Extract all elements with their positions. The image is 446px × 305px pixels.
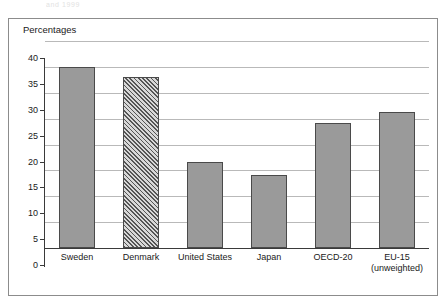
x-label-united-states: United States — [173, 252, 237, 263]
y-tick-mark-5 — [40, 239, 44, 240]
y-tick-mark-25 — [40, 136, 44, 137]
x-label-main: OECD-20 — [313, 252, 352, 262]
gridline-40 — [45, 41, 429, 42]
bar-sweden[interactable] — [59, 67, 95, 248]
x-label-main: Denmark — [123, 252, 160, 262]
x-label-japan: Japan — [237, 252, 301, 263]
y-tick-label-35: 35 — [28, 79, 38, 88]
bar-eu-15[interactable] — [379, 112, 415, 248]
y-tick-label-25: 25 — [28, 131, 38, 140]
y-tick-label-30: 30 — [28, 105, 38, 114]
top-caption-text: and 1999 — [46, 0, 80, 9]
y-tick-mark-20 — [40, 162, 44, 163]
y-tick-mark-15 — [40, 187, 44, 188]
bar-japan[interactable] — [251, 175, 287, 248]
x-label-denmark: Denmark — [109, 252, 173, 263]
gridline-10 — [45, 196, 429, 197]
bar-denmark[interactable] — [123, 77, 159, 248]
x-label-sweden: Sweden — [45, 252, 109, 263]
x-label-sub: (unweighted) — [365, 263, 429, 274]
y-tick-mark-0 — [40, 265, 44, 266]
y-tick-label-0: 0 — [33, 261, 38, 270]
gridline-35 — [45, 67, 429, 68]
gridline-0 — [45, 248, 429, 249]
y-tick-mark-10 — [40, 213, 44, 214]
x-label-eu-15: EU-15(unweighted) — [365, 252, 429, 274]
gridline-15 — [45, 170, 429, 171]
x-label-main: EU-15 — [384, 252, 410, 262]
gridline-25 — [45, 119, 429, 120]
x-label-main: Sweden — [61, 252, 94, 262]
x-axis-category-labels: SwedenDenmarkUnited StatesJapanOECD-20EU… — [45, 252, 429, 292]
y-tick-label-15: 15 — [28, 183, 38, 192]
y-tick-label-20: 20 — [28, 157, 38, 166]
bar-oecd-20[interactable] — [315, 123, 351, 248]
x-label-main: United States — [178, 252, 232, 262]
y-tick-mark-35 — [40, 84, 44, 85]
bar-united-states[interactable] — [187, 162, 223, 248]
gridline-30 — [45, 93, 429, 94]
y-tick-label-5: 5 — [33, 235, 38, 244]
x-label-oecd-20: OECD-20 — [301, 252, 365, 263]
gridline-20 — [45, 145, 429, 146]
plot-area — [45, 41, 429, 248]
y-tick-label-10: 10 — [28, 209, 38, 218]
x-label-main: Japan — [257, 252, 282, 262]
y-axis-title: Percentages — [23, 24, 76, 35]
y-tick-mark-30 — [40, 110, 44, 111]
chart-frame: Percentages 0510152025303540 SwedenDenma… — [8, 18, 438, 296]
gridline-5 — [45, 222, 429, 223]
y-tick-label-40: 40 — [28, 54, 38, 63]
y-tick-mark-40 — [40, 58, 44, 59]
